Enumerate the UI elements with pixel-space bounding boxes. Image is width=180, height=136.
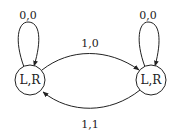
- left-self-loop-label: 0,0: [19, 9, 37, 22]
- state-node-right-label: L,R: [141, 73, 163, 87]
- right-to-left-label: 1,1: [81, 118, 99, 131]
- state-node-left: L,R: [15, 65, 45, 95]
- right-self-loop-edge: [139, 22, 159, 67]
- left-self-loop-edge: [18, 22, 39, 67]
- left-to-right-edge: [42, 54, 139, 71]
- right-self-loop-label: 0,0: [139, 9, 157, 22]
- right-to-left-edge: [43, 90, 140, 108]
- state-node-left-label: L,R: [20, 73, 42, 87]
- left-to-right-label: 1,0: [81, 37, 99, 50]
- state-diagram: 0,0 0,0 1,0 1,1 L,R L,R: [0, 0, 180, 136]
- diagram-canvas: 0,0 0,0 1,0 1,1 L,R L,R: [0, 0, 180, 136]
- state-node-right: L,R: [136, 65, 166, 95]
